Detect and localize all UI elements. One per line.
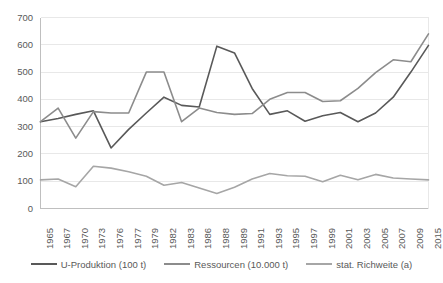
x-axis-tick-label: 1989	[239, 227, 249, 248]
x-axis-tick-label: 1973	[97, 227, 107, 248]
x-axis-tick-label: 1970	[80, 227, 90, 248]
series-line	[41, 45, 429, 148]
x-axis-tick-label: 2003	[362, 227, 372, 248]
x-axis-tick-label: 2007	[397, 227, 407, 248]
gridlines	[41, 18, 429, 182]
x-axis-tick-label: 1982	[168, 227, 178, 248]
x-axis-tick-label: 1979	[150, 227, 160, 248]
x-axis-tick-label: 2009	[415, 227, 425, 248]
legend-label: stat. Richweite (a)	[336, 259, 412, 270]
x-axis-tick-label: 2015	[433, 227, 443, 248]
x-axis-tick-label: 1986	[203, 227, 213, 248]
legend-item[interactable]: stat. Richweite (a)	[306, 259, 412, 270]
chart-legend: U-Produktion (100 t)Ressourcen (10.000 t…	[0, 255, 443, 273]
series-line	[41, 166, 429, 193]
y-axis-tick-label: 500	[3, 67, 33, 77]
x-axis-tick-label: 1993	[274, 227, 284, 248]
legend-label: U-Produktion (100 t)	[61, 259, 147, 270]
x-axis-tick-label: 1983	[186, 227, 196, 248]
x-axis-tick-label: 1995	[291, 227, 301, 248]
plot-border	[41, 18, 429, 209]
legend-item[interactable]: U-Produktion (100 t)	[31, 259, 147, 270]
y-axis-tick-label: 300	[3, 122, 33, 132]
x-axis-tick-label: 1999	[327, 227, 337, 248]
y-axis-tick-label: 200	[3, 149, 33, 159]
legend-line-swatch	[164, 263, 190, 265]
x-axis-tick-label: 1967	[62, 227, 72, 248]
x-axis-tick-label: 1988	[221, 227, 231, 248]
y-axis-tick-label: 700	[3, 13, 33, 23]
y-axis-tick-label: 600	[3, 40, 33, 50]
x-axis-tick-label: 2005	[380, 227, 390, 248]
x-axis-tick-label: 1965	[45, 227, 55, 248]
y-axis-tick-label: 400	[3, 94, 33, 104]
x-axis-tick-label: 2001	[344, 227, 354, 248]
x-axis-tick-label: 1991	[256, 227, 266, 248]
legend-item[interactable]: Ressourcen (10.000 t)	[164, 259, 288, 270]
legend-line-swatch	[31, 263, 57, 265]
x-axis-tick-label: 1997	[309, 227, 319, 248]
y-axis-tick-label: 0	[3, 204, 33, 214]
x-axis-tick-label: 1976	[115, 227, 125, 248]
y-axis-tick-label: 100	[3, 176, 33, 186]
legend-line-swatch	[306, 263, 332, 265]
legend-label: Ressourcen (10.000 t)	[194, 259, 288, 270]
x-axis-tick-label: 1977	[133, 227, 143, 248]
line-chart: 0100200300400500600700 19651967197019731…	[0, 0, 443, 283]
series-lines	[41, 34, 429, 194]
